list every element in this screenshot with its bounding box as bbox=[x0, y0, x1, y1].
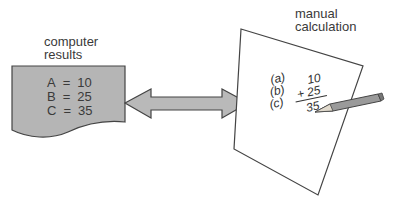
computer-printout: A=10 B=25 C=35 bbox=[12, 66, 125, 137]
manual-paper bbox=[234, 29, 363, 195]
diagram-canvas: A=10 B=25 C=35 (a) (b) (c) 10 + 25 35 bbox=[0, 0, 393, 197]
row-b: B=25 bbox=[47, 89, 92, 104]
row-a: A=10 bbox=[47, 75, 92, 90]
label-c: (c) bbox=[268, 95, 285, 112]
row-c: C=35 bbox=[47, 103, 92, 118]
double-arrow-icon bbox=[125, 89, 248, 118]
